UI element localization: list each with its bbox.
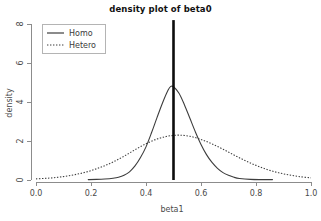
series-curve-homo (88, 86, 272, 180)
x-tick-label: 0.0 (30, 189, 43, 198)
x-tick-label: 0.8 (250, 189, 263, 198)
x-tick-label: 1.0 (305, 189, 318, 198)
y-tick-label: 2 (16, 138, 25, 143)
x-axis-ticks: 0.00.20.40.60.81.0 (30, 182, 318, 198)
x-tick-label: 0.4 (140, 189, 153, 198)
x-axis-label: beta1 (160, 205, 183, 214)
y-axis-label: density (5, 88, 14, 118)
y-axis-ticks: 02468 (16, 21, 31, 182)
y-tick-label: 8 (16, 21, 25, 26)
x-tick-label: 0.2 (85, 189, 98, 198)
y-tick-label: 6 (16, 60, 25, 65)
y-tick-label: 0 (16, 177, 25, 182)
density-plot-figure: density plot of beta0 02468 0.00.20.40.6… (0, 0, 321, 221)
legend: Homo Hetero (42, 24, 105, 53)
legend-label-homo: Homo (69, 29, 93, 38)
x-tick-label: 0.6 (195, 189, 208, 198)
y-tick-label: 4 (16, 99, 25, 104)
chart-canvas: 02468 0.00.20.40.60.81.0 density beta1 H… (0, 0, 321, 221)
legend-label-hetero: Hetero (69, 41, 96, 50)
